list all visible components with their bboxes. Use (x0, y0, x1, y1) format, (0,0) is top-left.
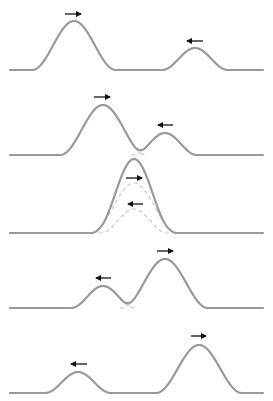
resultant-wave (10, 345, 263, 393)
panel-full-overlap (10, 159, 263, 233)
panel-pulses-approaching (10, 14, 263, 70)
panel-pulses-separated (10, 336, 263, 393)
diagram-canvas (0, 0, 273, 401)
panel-pulses-overlapping (10, 97, 263, 155)
resultant-wave (10, 105, 263, 155)
resultant-wave (10, 21, 263, 70)
panel-pulses-separating (10, 251, 263, 308)
resultant-wave (10, 259, 263, 308)
resultant-wave (10, 159, 263, 233)
superposition-diagram (0, 0, 273, 401)
